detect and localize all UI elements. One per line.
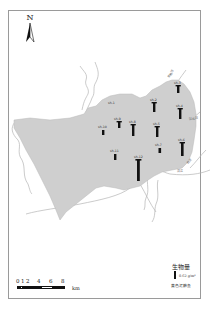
station-label: sh-12 [134, 155, 143, 159]
station-label: sh-9 [114, 117, 121, 121]
station-label: sh-1 [108, 101, 115, 105]
legend-value: 0.62 g/m² [179, 274, 196, 278]
station-label: sh-6 [178, 138, 185, 142]
scale-tick: 0 [16, 278, 20, 284]
study-area [14, 80, 196, 220]
legend: 生物量 0.62 g/m² 黄色泥鳅鱼 [168, 262, 198, 292]
scale-tick: 6 [49, 278, 53, 284]
scale-tick: 2 [26, 278, 30, 284]
scale-bar: 0 1 2 4 6 8 km [16, 278, 86, 294]
station-label: sh-4 [176, 104, 183, 108]
legend-title: 生物量 [172, 262, 190, 271]
river-label: 汉北河 [189, 115, 198, 121]
north-label: N [24, 14, 36, 22]
station-label: sh-10 [98, 125, 107, 129]
station-label: sh-7 [155, 143, 162, 147]
north-arrow-icon [24, 22, 36, 44]
scale-tick: 4 [37, 278, 41, 284]
north-arrow: N [24, 14, 36, 44]
scale-tick: 1 [21, 278, 25, 284]
legend-species: 黄色泥鳅鱼 [171, 283, 191, 288]
station-label: sh-11 [110, 149, 119, 153]
river-label: 汉江 [177, 168, 183, 173]
station-label: sh-8 [129, 120, 136, 124]
station-label: sh-2 [150, 98, 157, 102]
river-label: 东荆河 [166, 68, 175, 78]
legend-bar-symbol [174, 271, 176, 279]
station-label: sh-3 [174, 81, 181, 85]
station-label: sh-5 [153, 122, 160, 126]
scale-unit: km [72, 285, 80, 291]
scale-tick: 8 [61, 278, 65, 284]
